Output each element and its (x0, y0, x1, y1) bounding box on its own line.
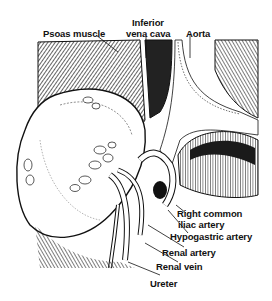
label-renal-vein: Renal vein (156, 262, 203, 272)
label-right-common-iliac-2: iliac artery (178, 220, 224, 230)
label-hypogastric-artery: Hypogastric artery (170, 232, 252, 242)
label-inferior-vena-cava-1: Inferior (132, 18, 164, 28)
label-inferior-vena-cava-2: vena cava (126, 29, 171, 39)
label-aorta: Aorta (186, 29, 210, 39)
anatomical-illustration (0, 0, 272, 301)
inferior-vena-cava (145, 40, 172, 118)
label-right-common-iliac-1: Right common (177, 209, 242, 219)
label-psoas-muscle: Psoas muscle (43, 29, 105, 39)
label-ureter: Ureter (150, 279, 177, 289)
label-renal-artery: Renal artery (162, 248, 216, 258)
